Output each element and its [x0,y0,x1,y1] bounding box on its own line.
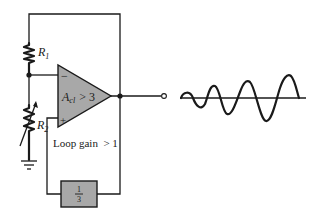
growing-oscillation-waveform [180,75,306,121]
noninverting-input-sign: + [60,114,66,126]
ground-icon [21,161,37,169]
feedback-numerator: 1 [77,185,81,194]
resistor-r1: R1 [24,43,49,75]
inverting-input-sign: − [61,69,68,83]
feedback-denominator: 3 [77,195,81,204]
op-amp: − + Acl> 3 [58,65,111,127]
resistor-r2-variable: R2 [20,101,48,160]
output-junction-node [117,93,122,98]
output-terminal [162,94,167,99]
oscillator-circuit-diagram: R1 R2 − + Acl> 3 Loop gain > 1 1 3 [0,0,330,218]
variable-arrow-head-icon [33,101,38,108]
noninverting-input-wire [47,118,61,194]
r1-label: R1 [37,45,49,61]
loop-gain-annotation: Loop gain > 1 [53,137,118,149]
feedback-network-box: 1 3 [61,181,97,207]
